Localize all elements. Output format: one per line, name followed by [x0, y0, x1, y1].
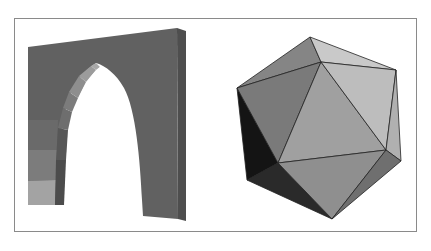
arch-block — [28, 120, 58, 150]
arch-intrados-left — [55, 160, 66, 205]
figure-canvas — [0, 0, 431, 251]
arch-intrados-left-mid — [56, 128, 68, 160]
arch-model — [28, 28, 186, 222]
arch-block — [28, 180, 56, 205]
icosahedron-model — [237, 37, 401, 219]
arch-side-face — [177, 28, 186, 221]
arch-block — [28, 150, 57, 181]
